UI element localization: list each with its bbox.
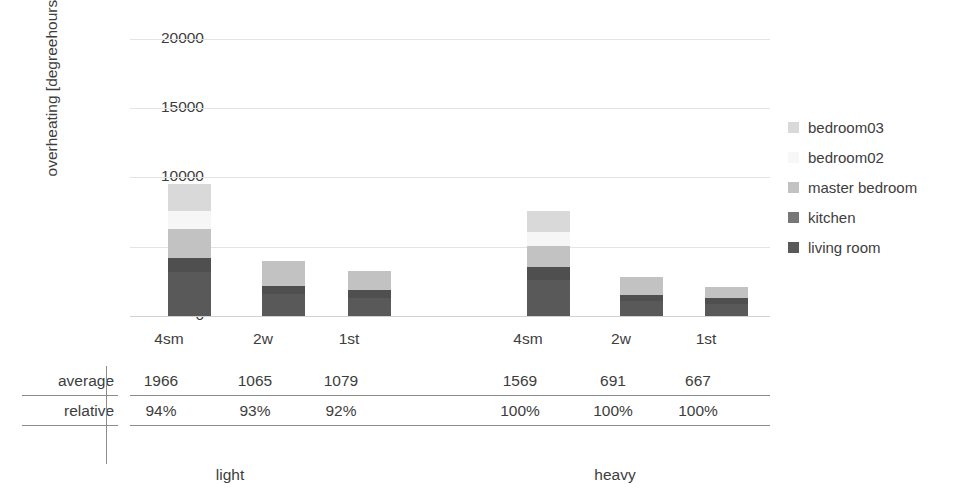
legend-swatch-living-room [788,242,799,253]
bar-segment-master-bedroom [348,271,391,290]
group-label-light: light [170,466,290,484]
legend-swatch-bedroom02 [788,152,799,163]
bar-segment-master-bedroom [705,287,748,298]
bar-segment-living-room [620,301,663,316]
legend-item-bedroom02[interactable]: bedroom02 [788,142,978,172]
bar-segment-kitchen [348,290,391,298]
bar-heavy-2w [620,277,663,316]
group-label-heavy: heavy [555,466,675,484]
table-cell-average-0: 1966 [131,366,191,396]
bar-segment-living-room [348,298,391,316]
stacked-bar-chart-figure: overheating [degreehours] 20000 15000 10… [0,0,978,496]
bar-segment-bedroom02 [168,211,211,229]
table-cell-average-5: 667 [668,366,728,396]
legend-swatch-master-bedroom [788,182,799,193]
legend-swatch-kitchen [788,212,799,223]
gridline-15000 [130,108,770,109]
bar-segment-living-room [705,304,748,316]
bar-segment-master-bedroom [527,246,570,267]
gridline-20000 [130,39,770,40]
bar-segment-living-room [527,280,570,316]
plot-area [130,39,770,316]
table-cell-relative-3: 100% [490,396,550,426]
x-axis-baseline [130,316,770,317]
table-row-label-relative: relative [22,396,118,426]
bar-heavy-4sm [527,211,570,316]
legend-label-bedroom03: bedroom03 [808,119,884,136]
legend-item-living-room[interactable]: living room [788,232,978,262]
bar-light-2w [262,261,305,316]
bar-segment-master-bedroom [620,277,663,295]
chart-legend: bedroom03 bedroom02 master bedroom kitch… [788,112,978,262]
table-vertical-rule [106,366,107,464]
y-axis-title: overheating [degreehours] [41,0,63,226]
x-tick-label-3: 4sm [498,330,558,348]
x-tick-label-5: 1st [676,330,736,348]
gridline-5000 [130,247,770,248]
bar-segment-living-room [168,272,211,316]
bar-segment-kitchen [527,267,570,280]
table-cell-relative-0: 94% [131,396,191,426]
bar-light-4sm [168,184,211,316]
table-cell-average-2: 1079 [311,366,371,396]
bar-segment-master-bedroom [262,261,305,285]
legend-item-kitchen[interactable]: kitchen [788,202,978,232]
legend-label-kitchen: kitchen [808,209,856,226]
bar-segment-living-room [262,294,305,316]
table-cell-relative-5: 100% [668,396,728,426]
bar-segment-bedroom02 [527,232,570,246]
table-cell-average-4: 691 [583,366,643,396]
table-cell-average-3: 1569 [490,366,550,396]
bar-segment-bedroom03 [168,184,211,211]
gridline-10000 [130,177,770,178]
bar-segment-kitchen [262,286,305,294]
table-cell-relative-4: 100% [583,396,643,426]
table-cells-relative: 94% 93% 92% 100% 100% 100% [130,396,770,426]
x-tick-label-2: 1st [319,330,379,348]
legend-label-bedroom02: bedroom02 [808,149,884,166]
bar-segment-master-bedroom [168,229,211,258]
bar-light-1st [348,271,391,316]
bar-heavy-1st [705,287,748,316]
legend-label-living-room: living room [808,239,881,256]
x-tick-label-1: 2w [233,330,293,348]
table-cell-average-1: 1065 [225,366,285,396]
legend-item-master-bedroom[interactable]: master bedroom [788,172,978,202]
x-tick-label-0: 4sm [139,330,199,348]
bar-segment-bedroom03 [527,211,570,232]
legend-label-master-bedroom: master bedroom [808,179,917,196]
table-row-relative: relative 94% 93% 92% 100% 100% 100% [22,396,770,426]
table-cell-relative-1: 93% [225,396,285,426]
data-table: average 1966 1065 1079 1569 691 667 rela… [22,366,770,426]
legend-swatch-bedroom03 [788,122,799,133]
table-cell-relative-2: 92% [311,396,371,426]
table-row-average: average 1966 1065 1079 1569 691 667 [22,366,770,396]
table-cells-average: 1966 1065 1079 1569 691 667 [130,366,770,396]
bar-segment-kitchen [168,258,211,273]
x-tick-label-4: 2w [591,330,651,348]
legend-item-bedroom03[interactable]: bedroom03 [788,112,978,142]
table-row-label-average: average [22,366,118,396]
